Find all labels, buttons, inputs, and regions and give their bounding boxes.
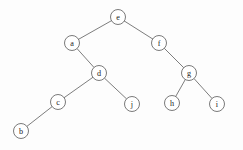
tree-node-b[interactable]: b — [14, 124, 29, 139]
tree-edge-f-g — [164, 48, 183, 67]
tree-edge-d-j — [104, 78, 126, 99]
node-label-g: g — [187, 69, 191, 78]
node-label-j: j — [130, 100, 133, 109]
tree-edge-c-b — [27, 107, 52, 127]
node-label-a: a — [70, 39, 74, 48]
tree-node-g[interactable]: g — [182, 66, 197, 81]
tree-canvas: eafdgcjhib — [0, 0, 243, 150]
node-label-d: d — [97, 69, 101, 78]
tree-edge-e-a — [79, 21, 112, 40]
node-label-f: f — [158, 39, 161, 48]
node-label-c: c — [56, 98, 60, 107]
tree-edge-a-d — [77, 49, 94, 68]
binary-tree-figure: eafdgcjhib — [0, 0, 243, 150]
tree-node-a[interactable]: a — [65, 36, 80, 51]
node-label-e: e — [116, 13, 120, 22]
tree-edge-e-f — [124, 21, 152, 39]
tree-edge-g-h — [176, 80, 186, 97]
tree-node-c[interactable]: c — [51, 95, 66, 110]
node-label-h: h — [170, 99, 174, 108]
tree-edge-d-c — [64, 77, 93, 97]
tree-node-e[interactable]: e — [111, 10, 126, 25]
node-label-b: b — [19, 127, 23, 136]
tree-node-d[interactable]: d — [92, 66, 107, 81]
tree-node-j[interactable]: j — [125, 97, 140, 112]
tree-edge-g-i — [194, 79, 212, 99]
tree-node-h[interactable]: h — [165, 96, 180, 111]
tree-node-f[interactable]: f — [152, 36, 167, 51]
node-layer: eafdgcjhib — [14, 10, 225, 139]
tree-node-i[interactable]: i — [210, 97, 225, 112]
